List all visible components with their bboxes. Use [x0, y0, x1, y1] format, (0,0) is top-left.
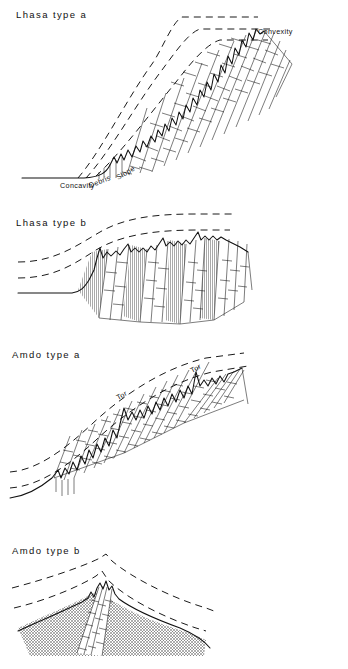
panel-title-lhasa-type-a: Lhasa type a	[16, 9, 87, 20]
label-convexity: Convexity	[258, 27, 293, 36]
panel-title-lhasa-type-b: Lhasa type b	[16, 217, 87, 228]
panel-title-amdo-type-b: Amdo type b	[12, 545, 81, 556]
panel-title-amdo-type-a: Amdo type a	[12, 349, 81, 360]
slope-profile-figure: Lhasa type a	[0, 0, 348, 669]
figure-background	[0, 0, 348, 669]
